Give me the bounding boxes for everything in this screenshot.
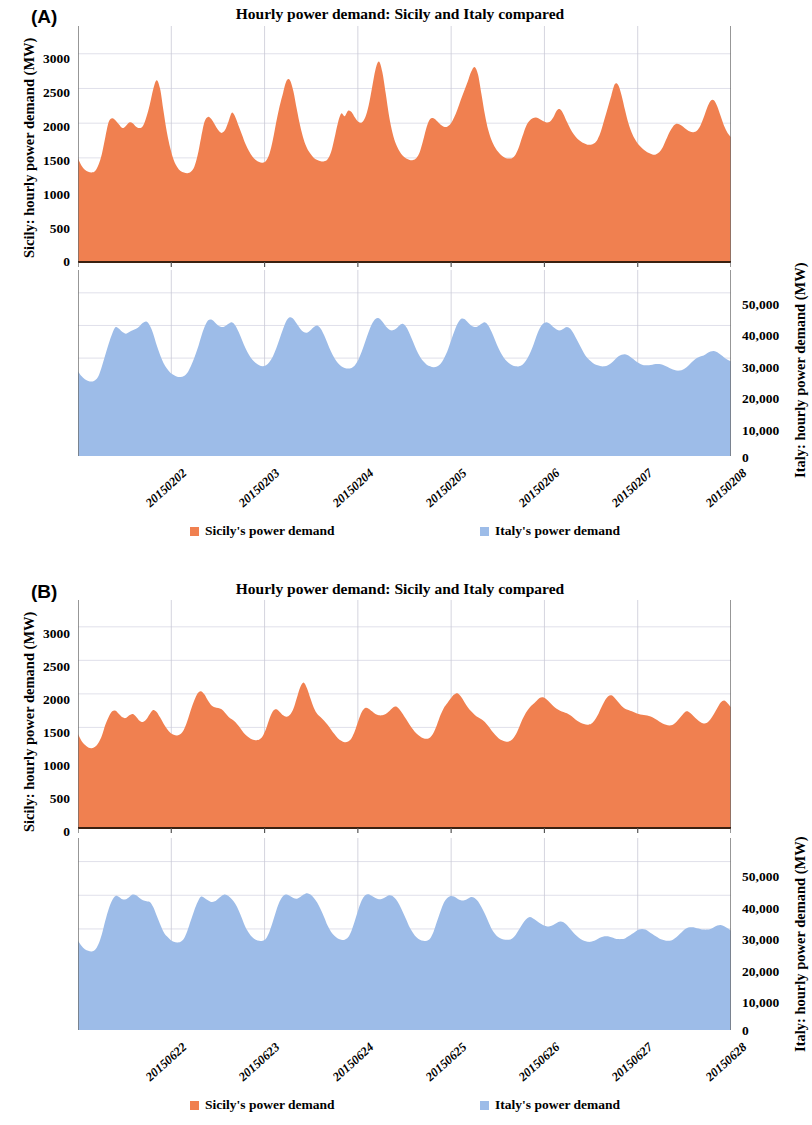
panel-b-legend-item-italy: Italy's power demand bbox=[480, 1097, 620, 1113]
panel-b-y2tick-40000: 40,000 bbox=[742, 901, 812, 917]
panel-b-title: Hourly power demand: Sicily and Italy co… bbox=[100, 580, 700, 598]
panel-a-y2tick-0: 0 bbox=[742, 450, 812, 466]
panel-b-y2tick-10000: 10,000 bbox=[742, 995, 812, 1011]
panel-a-legend-item-sicily: Sicily's power demand bbox=[190, 523, 335, 539]
legend-swatch-italy-icon bbox=[480, 1101, 489, 1110]
panel-a-ytick-3000: 3000 bbox=[8, 51, 70, 67]
panel-a-y2tick-10000: 10,000 bbox=[742, 423, 812, 439]
legend-swatch-sicily-icon bbox=[190, 1101, 199, 1110]
panel-b-y2tick-0: 0 bbox=[742, 1023, 812, 1039]
panel-b-ytick-1500: 1500 bbox=[8, 725, 70, 741]
panel-b: (B) Hourly power demand: Sicily and Ital… bbox=[0, 562, 807, 1125]
panel-a-y2tick-20000: 20,000 bbox=[742, 391, 812, 407]
panel-b-legend-label-sicily: Sicily's power demand bbox=[205, 1097, 335, 1113]
panel-a-ytick-2500: 2500 bbox=[8, 85, 70, 101]
panel-b-legend-item-sicily: Sicily's power demand bbox=[190, 1097, 335, 1113]
panel-b-plot-area bbox=[78, 600, 731, 1030]
panel-b-letter: (B) bbox=[31, 581, 57, 603]
panel-a-ytick-1000: 1000 bbox=[8, 187, 70, 203]
legend-swatch-italy-icon bbox=[480, 527, 489, 536]
panel-a-letter: (A) bbox=[31, 6, 57, 28]
panel-b-y2tick-50000: 50,000 bbox=[742, 869, 812, 885]
panel-b-legend: Sicily's power demand Italy's power dema… bbox=[0, 1097, 807, 1119]
panel-a-y2tick-50000: 50,000 bbox=[742, 297, 812, 313]
panel-b-ytick-500: 500 bbox=[8, 791, 70, 807]
panel-b-y2tick-30000: 30,000 bbox=[742, 932, 812, 948]
panel-a-y2tick-40000: 40,000 bbox=[742, 328, 812, 344]
panel-a-legend-label-sicily: Sicily's power demand bbox=[205, 523, 335, 539]
panel-b-ytick-2000: 2000 bbox=[8, 692, 70, 708]
panel-b-ytick-1000: 1000 bbox=[8, 758, 70, 774]
panel-b-ytick-3000: 3000 bbox=[8, 626, 70, 642]
panel-b-ytick-2500: 2500 bbox=[8, 659, 70, 675]
panel-a-title: Hourly power demand: Sicily and Italy co… bbox=[100, 5, 700, 23]
legend-swatch-sicily-icon bbox=[190, 527, 199, 536]
panel-a-ytick-2000: 2000 bbox=[8, 119, 70, 135]
panel-a-legend: Sicily's power demand Italy's power dema… bbox=[0, 523, 807, 545]
panel-b-y2tick-20000: 20,000 bbox=[742, 964, 812, 980]
panel-a-ytick-0: 0 bbox=[8, 254, 70, 270]
panel-b-legend-label-italy: Italy's power demand bbox=[495, 1097, 620, 1113]
panel-a: (A) Hourly power demand: Sicily and Ital… bbox=[0, 0, 807, 560]
panel-b-ytick-0: 0 bbox=[8, 824, 70, 840]
panel-a-plot-area bbox=[78, 26, 731, 456]
panel-a-legend-item-italy: Italy's power demand bbox=[480, 523, 620, 539]
panel-a-y2tick-30000: 30,000 bbox=[742, 360, 812, 376]
panel-a-ytick-500: 500 bbox=[8, 221, 70, 237]
panel-a-ytick-1500: 1500 bbox=[8, 153, 70, 169]
panel-a-legend-label-italy: Italy's power demand bbox=[495, 523, 620, 539]
